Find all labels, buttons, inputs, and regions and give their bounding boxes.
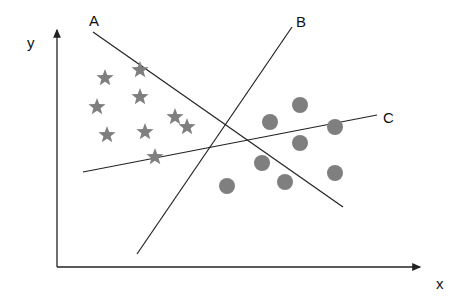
star-point	[96, 69, 113, 85]
circle-point	[292, 135, 308, 151]
star-point	[131, 88, 148, 104]
star-point	[178, 118, 195, 134]
circle-point	[277, 174, 293, 190]
circle-point	[262, 114, 278, 130]
circle-point	[254, 155, 270, 171]
class-2-circles	[219, 97, 343, 194]
circle-point	[327, 165, 343, 181]
star-point	[98, 126, 115, 142]
boundary-line-c: C	[83, 109, 394, 172]
circle-point	[327, 119, 343, 135]
star-point	[146, 148, 163, 164]
star-point	[166, 108, 183, 124]
star-point	[131, 61, 148, 77]
decision-boundaries: ABC	[83, 12, 394, 254]
line-label-a: A	[89, 12, 99, 29]
star-point	[88, 98, 105, 114]
circle-point	[219, 178, 235, 194]
y-axis-label: y	[27, 34, 35, 51]
line-label-c: C	[383, 109, 394, 126]
classifier-diagram: y x ABC	[0, 0, 454, 296]
x-axis-label: x	[436, 275, 444, 292]
class-1-stars	[88, 61, 195, 164]
line-label-b: B	[296, 13, 306, 30]
star-point	[136, 123, 153, 139]
circle-point	[292, 97, 308, 113]
